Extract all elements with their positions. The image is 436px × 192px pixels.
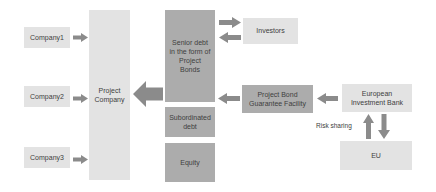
risk-sharing-label: Risk sharing	[316, 122, 352, 129]
arrow-senior-debt-to-investors-icon	[219, 17, 241, 28]
arrow-guarantee-facility-to-senior-debt-icon	[218, 93, 240, 104]
arrow-company1-to-project-company-icon	[73, 33, 88, 42]
node-company1: Company1	[24, 27, 70, 48]
node-investors: Investors	[243, 18, 298, 44]
node-equity: Equity	[165, 143, 215, 182]
arrow-company2-to-project-company-icon	[73, 94, 88, 103]
node-guarantee-facility: Project Bond Guarantee Facility	[242, 85, 313, 113]
arrow-eib-to-eu-icon	[378, 114, 390, 139]
arrow-eib-to-guarantee-facility-icon	[317, 93, 338, 104]
node-company3: Company3	[24, 147, 70, 168]
node-project-company: Project Company	[89, 10, 130, 180]
diagram-canvas: Company1 Company2 Company3 Project Compa…	[0, 0, 436, 192]
node-senior-debt: Senior debt in the form of Project Bonds	[165, 10, 215, 102]
node-eu: EU	[340, 141, 412, 170]
node-company2: Company2	[24, 86, 70, 107]
arrow-investors-to-senior-debt-icon	[219, 32, 241, 43]
node-european-investment-bank: European Investment Bank	[342, 84, 412, 112]
arrow-senior-debt-to-project-company-icon	[133, 81, 163, 107]
arrow-company3-to-project-company-icon	[73, 155, 88, 164]
arrow-eu-to-eib-icon	[363, 114, 374, 139]
node-subordinated-debt: Subordinated debt	[165, 107, 215, 137]
